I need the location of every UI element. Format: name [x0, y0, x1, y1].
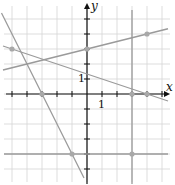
x-tick-label: 1	[98, 98, 105, 111]
line-b	[3, 46, 168, 101]
data-point	[144, 31, 149, 36]
data-point	[69, 151, 74, 156]
plotted-lines	[2, 10, 169, 184]
data-point	[129, 91, 134, 96]
data-point	[129, 151, 134, 156]
coordinate-plane: y x 1 1	[0, 0, 175, 185]
y-axis-arrow-icon	[84, 3, 90, 9]
data-point	[84, 46, 89, 51]
y-tick-label: 1	[78, 72, 85, 85]
data-point	[9, 46, 14, 51]
data-point	[39, 91, 44, 96]
data-point	[144, 91, 149, 96]
x-axis-label: x	[166, 80, 173, 94]
y-axis-label: y	[90, 0, 98, 13]
